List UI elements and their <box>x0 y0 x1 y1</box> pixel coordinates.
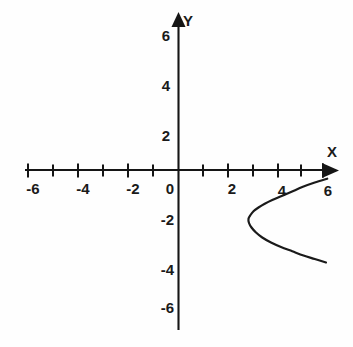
coordinate-plane: -6 -4 -2 2 4 6 0 6 4 2 -2 -4 -6 X Y <box>0 0 353 347</box>
parabola-curve <box>248 179 327 263</box>
y-tick-label-6: 6 <box>162 27 170 44</box>
x-tick-label--4: -4 <box>76 180 90 197</box>
y-tick-label-2: 2 <box>162 127 170 144</box>
x-tick-label-6: 6 <box>324 182 332 199</box>
y-axis-label: Y <box>183 12 193 29</box>
y-tick-label--2: -2 <box>161 211 174 228</box>
x-tick-label--6: -6 <box>26 180 39 197</box>
x-tick-label--2: -2 <box>126 180 139 197</box>
y-tick-label--6: -6 <box>161 299 174 316</box>
graph-figure: -6 -4 -2 2 4 6 0 6 4 2 -2 -4 -6 X Y <box>0 0 353 347</box>
x-tick-label-2: 2 <box>228 180 236 197</box>
y-tick-label-4: 4 <box>162 77 171 94</box>
y-tick-label--4: -4 <box>161 261 175 278</box>
x-axis-label: X <box>327 143 337 160</box>
x-axis-arrow-icon <box>322 163 339 178</box>
origin-label: 0 <box>166 180 174 197</box>
